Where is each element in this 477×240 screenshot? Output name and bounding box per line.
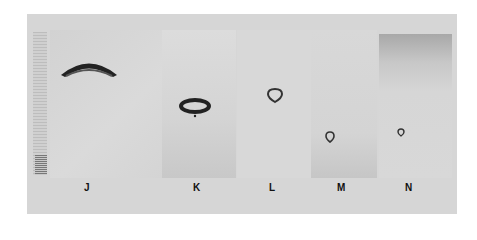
panel-label-n: N: [405, 182, 412, 193]
ellipse-ring-object: [179, 97, 213, 119]
tiny-teardrop-ring-object: [396, 127, 406, 138]
panel-n: [379, 34, 452, 178]
panel-j: [50, 30, 162, 178]
small-teardrop-ring-object: [324, 130, 336, 144]
crescent-ring-object: [58, 58, 120, 84]
panel-label-m: M: [337, 182, 345, 193]
teardrop-ring-object: [265, 87, 285, 105]
ruler-scale-dense: [35, 155, 47, 175]
panel-label-j: J: [84, 182, 90, 193]
panel-m: [311, 30, 377, 178]
panel-label-k: K: [193, 182, 200, 193]
ruler-scale: [33, 32, 47, 175]
panel-label-l: L: [269, 182, 275, 193]
